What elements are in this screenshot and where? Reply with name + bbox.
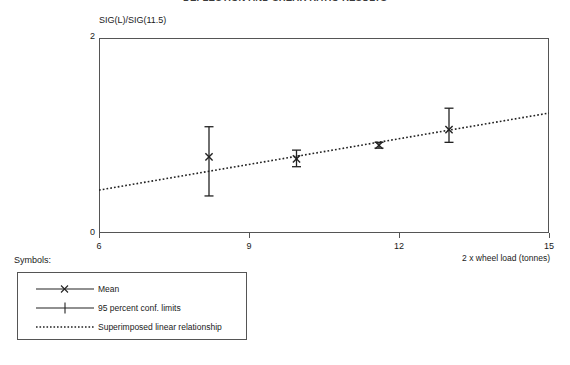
x-axis-tick-label: 6 bbox=[84, 241, 114, 251]
error-bar bbox=[445, 108, 454, 142]
legend-label-linear-relationship: Superimposed linear relationship bbox=[98, 322, 222, 332]
error-bar bbox=[205, 127, 214, 196]
legend-item-conf-limits: 95 percent conf. limits bbox=[18, 298, 246, 318]
legend-box: Mean 95 percent conf. limits Superimpose… bbox=[17, 272, 247, 340]
x-axis-tick-label: 12 bbox=[384, 241, 414, 251]
mean-marker-icon bbox=[32, 283, 98, 295]
legend-caption: Symbols: bbox=[14, 255, 51, 265]
x-axis-tickmark bbox=[549, 233, 550, 238]
x-axis-title: 2 x wheel load (tonnes) bbox=[0, 253, 550, 263]
legend-item-linear-relationship: Superimposed linear relationship bbox=[18, 317, 246, 337]
chart-title: DEFLECTION AND SHEAR RATIO RESULTS bbox=[0, 0, 570, 3]
chart-page: DEFLECTION AND SHEAR RATIO RESULTS SIG(L… bbox=[0, 0, 570, 365]
conf-limit-marker-icon bbox=[32, 302, 98, 314]
legend-item-mean: Mean bbox=[18, 279, 246, 299]
legend-label-mean: Mean bbox=[98, 284, 119, 294]
regression-line bbox=[99, 113, 549, 190]
x-axis-tick-label: 9 bbox=[234, 241, 264, 251]
y-axis-tick-top: 2 bbox=[71, 31, 95, 41]
plot-canvas bbox=[99, 38, 549, 233]
x-axis-tickmark bbox=[399, 233, 400, 238]
x-axis-tick-label: 15 bbox=[534, 241, 564, 251]
y-axis-tick-bottom: 0 bbox=[71, 227, 95, 237]
dotted-line-icon bbox=[32, 321, 98, 333]
legend-label-conf-limits: 95 percent conf. limits bbox=[98, 303, 181, 313]
x-axis-tickmark bbox=[99, 233, 100, 238]
x-axis-tickmark bbox=[249, 233, 250, 238]
y-axis-title: SIG(L)/SIG(11.5) bbox=[99, 15, 166, 25]
